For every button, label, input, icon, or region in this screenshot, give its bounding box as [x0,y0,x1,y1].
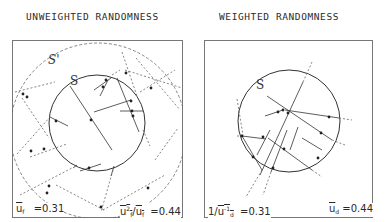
inner-circle-s [49,75,145,171]
inner-circle-label-left: S [70,74,78,88]
stat-mean-uf: uf =0.31 [16,203,64,217]
left-panel [10,41,186,220]
outer-circle-label: S' [48,53,60,67]
stat-ratio-uf2-uf: u2f/uf =0.44 [120,203,181,220]
diagram-canvas [0,0,387,222]
inner-circle-label-right: S [256,78,264,92]
stat-mean-ud: ud =0.44 [329,203,373,217]
right-panel-frame [205,41,373,218]
outer-circle-s-prime [10,43,186,219]
stat-harmonic-ud: 1/u-1d =0.31 [208,203,271,220]
right-panel [205,41,373,218]
